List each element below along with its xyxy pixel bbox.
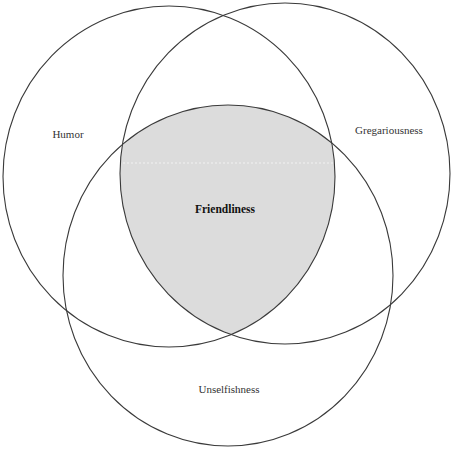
venn-diagram: Humor Gregariousness Unselfishness Frien… <box>0 0 451 453</box>
unselfishness-label: Unselfishness <box>198 383 259 395</box>
friendliness-label: Friendliness <box>195 203 256 215</box>
gregariousness-label: Gregariousness <box>355 124 423 136</box>
humor-label: Humor <box>52 128 84 140</box>
